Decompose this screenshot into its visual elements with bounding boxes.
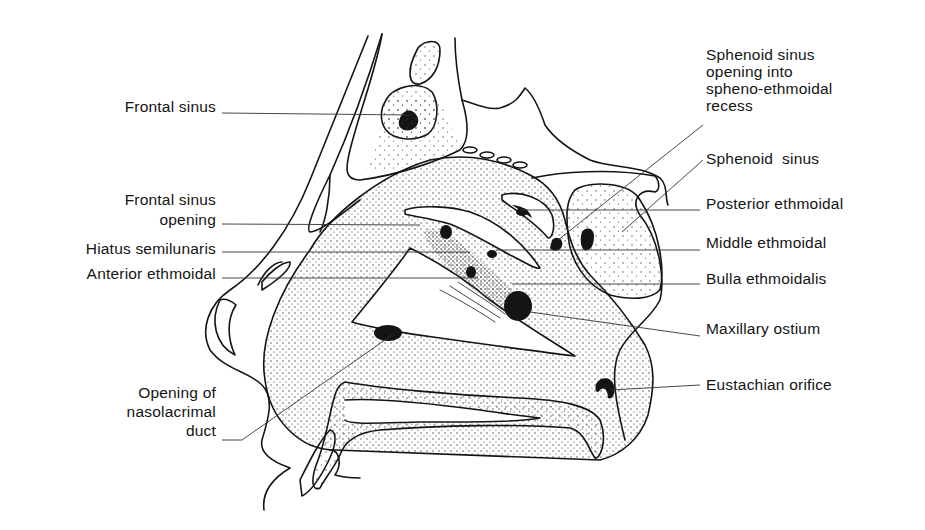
label-line: recess: [706, 97, 832, 114]
label-bulla-ethmoidalis: Bulla ethmoidalis: [706, 270, 827, 287]
nasal-slit: [262, 262, 290, 290]
anterior-ethmoidal-spot: [466, 266, 476, 278]
label-maxillary-ostium: Maxillary ostium: [706, 320, 820, 337]
label-line: spheno-ethmoidal: [706, 80, 832, 97]
hiatus-spot: [440, 225, 452, 239]
label-line: opening: [125, 211, 216, 228]
label-line: Anterior ethmoidal: [87, 265, 216, 282]
label-eustachian-orifice: Eustachian orifice: [706, 376, 832, 393]
label-line: opening into: [706, 63, 832, 80]
vestibule-fold: [215, 299, 236, 355]
label-middle-ethmoidal: Middle ethmoidal: [706, 234, 826, 251]
label-line: Sphenoid sinus: [706, 46, 832, 63]
nasolacrimal-duct-spot: [374, 325, 402, 341]
label-line: Eustachian orifice: [706, 376, 832, 393]
label-posterior-ethmoidal: Posterior ethmoidal: [706, 195, 843, 212]
label-sphenoid-sinus: Sphenoid sinus: [706, 150, 819, 167]
label-line: Maxillary ostium: [706, 320, 820, 337]
label-hiatus-semilunaris: Hiatus semilunaris: [86, 240, 216, 257]
middle-ethmoidal-spot: [487, 250, 497, 258]
label-line: Bulla ethmoidalis: [706, 270, 827, 287]
label-line: Posterior ethmoidal: [706, 195, 843, 212]
label-line: Frontal sinus: [125, 191, 216, 208]
label-frontal-sinus-opening: Frontal sinus opening: [125, 191, 216, 228]
label-line: duct: [127, 422, 216, 439]
label-line: Middle ethmoidal: [706, 234, 826, 251]
label-frontal-sinus: Frontal sinus: [125, 98, 216, 115]
label-line: Hiatus semilunaris: [86, 240, 216, 257]
label-line: Sphenoid sinus: [706, 150, 819, 167]
label-nasolacrimal-duct-opening: Opening of nasolacrimal duct: [127, 384, 216, 439]
label-anterior-ethmoidal: Anterior ethmoidal: [87, 265, 216, 282]
maxillary-ostium-spot: [504, 291, 532, 321]
label-line: Frontal sinus: [125, 98, 216, 115]
upper-frontal-cell: [410, 42, 440, 85]
label-line: Opening of: [127, 384, 216, 401]
label-sphenoid-sinus-opening: Sphenoid sinus opening into spheno-ethmo…: [706, 46, 832, 114]
label-line: nasolacrimal: [127, 403, 216, 420]
